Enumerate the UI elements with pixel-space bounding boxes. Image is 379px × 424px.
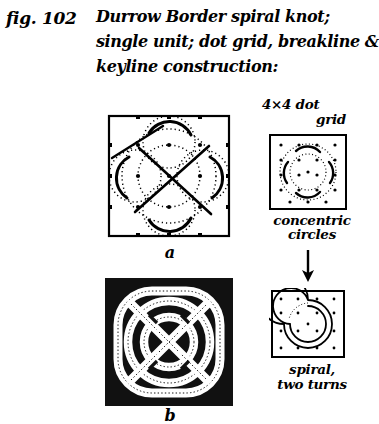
spiral-label: spiral, two turns bbox=[262, 362, 362, 392]
finished-knot-diagram bbox=[105, 278, 233, 406]
dot-grid-label-line2: grid bbox=[262, 112, 362, 127]
knot-artwork bbox=[105, 278, 233, 406]
spiral-label-line2: two turns bbox=[277, 376, 346, 392]
flow-arrow-down bbox=[297, 249, 319, 283]
concentric-label-line2: circles bbox=[288, 226, 336, 242]
dot-grid-label: 4×4 dot grid bbox=[262, 97, 362, 127]
caption-line-1: Durrow Border spiral knot; bbox=[96, 4, 356, 29]
spiral-diagram bbox=[269, 288, 347, 360]
dot-grid-diagram bbox=[267, 132, 349, 212]
figure-heading: fig. 102 Durrow Border spiral knot; sing… bbox=[0, 0, 364, 92]
panel-b-caption: b bbox=[105, 406, 235, 424]
construction-artwork bbox=[105, 112, 233, 240]
figure-number: fig. 102 bbox=[6, 8, 77, 28]
figure-caption-block: Durrow Border spiral knot; single unit; … bbox=[96, 4, 364, 79]
keyline-construction-diagram bbox=[105, 112, 233, 240]
panel-a-caption: a bbox=[105, 243, 235, 262]
concentric-circles-label: concentric circles bbox=[262, 213, 362, 241]
spiral-artwork bbox=[269, 288, 347, 360]
caption-line-3: keyline construction: bbox=[96, 54, 356, 79]
dot-grid-label-line1: 4×4 dot bbox=[262, 96, 319, 112]
caption-line-2: single unit; dot grid, breakline & bbox=[96, 29, 356, 54]
dot-grid-artwork bbox=[267, 132, 349, 212]
arrow-down-icon bbox=[297, 249, 319, 283]
spiral-label-line1: spiral, bbox=[289, 361, 335, 377]
